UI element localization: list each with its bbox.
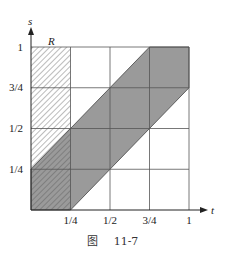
figure-11-7: t s R 1/4 1/2 3/4 1 1/4 1/2 3/4 1 图 11-7 xyxy=(0,0,228,258)
x-tick-3-4: 3/4 xyxy=(142,214,157,226)
caption-number: 11-7 xyxy=(114,235,139,248)
x-tick-1-2: 1/2 xyxy=(103,214,117,226)
region-label-r: R xyxy=(47,35,55,47)
x-tick-1-4: 1/4 xyxy=(63,214,78,226)
y-tick-1-4: 1/4 xyxy=(9,163,24,175)
y-tick-3-4: 3/4 xyxy=(9,81,24,93)
y-axis-label: s xyxy=(28,15,32,27)
x-axis-label: t xyxy=(211,204,215,216)
y-tick-1: 1 xyxy=(18,41,24,53)
x-axis-arrow-icon xyxy=(200,207,208,213)
y-axis-arrow-icon xyxy=(28,27,34,35)
y-tick-1-2: 1/2 xyxy=(9,122,23,134)
caption-prefix: 图 xyxy=(87,235,98,248)
x-tick-1: 1 xyxy=(186,214,192,226)
